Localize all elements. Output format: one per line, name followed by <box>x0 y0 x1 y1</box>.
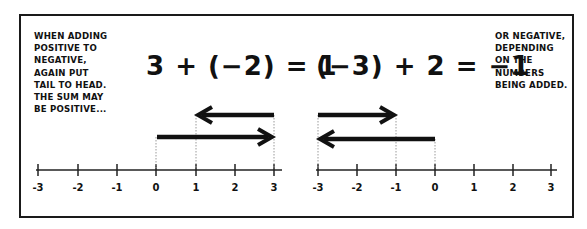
arrow-left-icon <box>320 131 435 147</box>
tick-label: -1 <box>381 182 411 193</box>
number-line-left <box>36 107 282 176</box>
number-line-right <box>316 107 557 176</box>
tick-label: 3 <box>259 182 289 193</box>
tick-label: -3 <box>303 182 333 193</box>
tick-label: 1 <box>459 182 489 193</box>
tick-label: -1 <box>102 182 132 193</box>
tick-label: 0 <box>141 182 171 193</box>
tick-label: -2 <box>63 182 93 193</box>
arrow-left-icon <box>198 107 274 123</box>
number-lines-graphic <box>0 0 587 229</box>
guide-lines-left <box>156 115 274 168</box>
guide-lines-right <box>318 115 435 168</box>
tick-label: 2 <box>220 182 250 193</box>
arrow-right-icon <box>157 129 272 145</box>
tick-label: 3 <box>536 182 566 193</box>
arrow-right-icon <box>318 107 394 123</box>
tick-label: 2 <box>498 182 528 193</box>
tick-label: 0 <box>420 182 450 193</box>
tick-label: 1 <box>181 182 211 193</box>
tick-label: -3 <box>23 182 53 193</box>
tick-label: -2 <box>342 182 372 193</box>
